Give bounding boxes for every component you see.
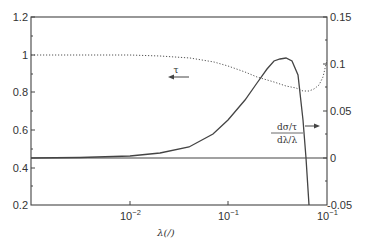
tau-annotation: τ (168, 65, 189, 80)
right-tick-label: 0.15 (330, 11, 351, 23)
right-tick-label: 0 (330, 152, 336, 164)
x-tick-label: 10−2 (120, 208, 141, 222)
x-axis-ticks (130, 201, 228, 205)
right-axis-labels: 0.15 0.1 0.05 0 -0.05 (327, 11, 352, 211)
left-axis-labels: 1.2 1 0.8 0.6 0.4 0.2 (13, 11, 28, 211)
left-axis-ticks (31, 17, 35, 186)
left-tick-label: 0.6 (13, 124, 28, 136)
tau-curve (31, 55, 327, 91)
left-tick-label: 1 (22, 49, 28, 61)
arrow-right-icon (314, 124, 320, 129)
arrow-left-icon (168, 75, 174, 80)
x-tick-label: 10−1 (218, 208, 239, 222)
x-axis-labels: 10−2 10−1 10−1 (120, 208, 338, 222)
tau-label: τ (174, 65, 179, 75)
right-tick-label: 0.05 (330, 105, 351, 117)
left-tick-label: 0.8 (13, 86, 28, 98)
ratio-numerator: dσ/τ (277, 122, 297, 132)
right-tick-label: 0.1 (330, 58, 345, 70)
ratio-denominator: dλ/λ (277, 135, 297, 145)
right-axis-ticks (323, 17, 327, 181)
x-axis-title: λ(/) (156, 227, 175, 238)
plot-area (31, 17, 327, 205)
chart: 1.2 1 0.8 0.6 0.4 0.2 0.15 0.1 0.05 0 -0… (0, 0, 366, 239)
ratio-annotation: dσ/τ dλ/λ (271, 122, 320, 145)
left-tick-label: 0.4 (13, 162, 28, 174)
left-tick-label: 0.2 (13, 199, 28, 211)
x-tick-label: 10−1 (317, 208, 338, 222)
left-tick-label: 1.2 (13, 11, 28, 23)
ratio-curve (31, 58, 309, 205)
